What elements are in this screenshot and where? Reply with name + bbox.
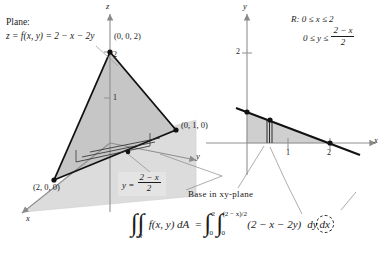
region-caption-line1: R: 0 ≤ x ≤ 2 — [291, 14, 355, 24]
equals-sign: = — [195, 218, 201, 231]
axis-label-x-2d: x — [374, 136, 378, 146]
double-integral-sign: ∫∫ R — [131, 214, 145, 234]
tick-z-1: 1 — [113, 93, 117, 102]
region-y-bounds-denominator: 2 — [331, 36, 354, 47]
region-x-bounds: 0 ≤ x ≤ 2 — [302, 14, 334, 24]
region-y-bounds-prefix: 0 ≤ y ≤ — [303, 33, 328, 43]
outer-lower-limit: 0 — [210, 229, 214, 237]
tick-z-2: 2 — [113, 50, 117, 59]
dashed-circle-annotation — [316, 215, 334, 234]
outer-upper-limit: 2 — [212, 210, 216, 218]
axis-label-y-2d: y — [243, 2, 247, 12]
region-caption: R: 0 ≤ x ≤ 2 0 ≤ y ≤ 2 − x 2 — [291, 14, 355, 47]
base-in-xy-plane-label: Base in xy-plane — [188, 189, 253, 199]
plane-caption-line1: Plane: — [6, 17, 94, 28]
integral-subscript-region: R — [138, 232, 142, 240]
region-caption-line2: 0 ≤ y ≤ 2 − x 2 — [303, 26, 355, 47]
vertex-label-y-intercept: (0, 1, 0) — [181, 121, 208, 131]
vertex-label-z-intercept: (0, 0, 2) — [114, 32, 141, 42]
integrand-right: (2 − x − 2y) — [247, 218, 301, 231]
y-equation-fraction: 2 − x 2 — [138, 173, 161, 194]
region-y-bounds-numerator: 2 − x — [331, 26, 354, 35]
outer-integral: ∫ 2 0 — [205, 214, 212, 234]
vertex-label-x-intercept: (2, 0, 0) — [33, 183, 60, 193]
y-equation-callout: y = 2 − x 2 — [118, 172, 166, 196]
y-equation-numerator: 2 − x — [138, 173, 161, 182]
tick-x-2-2d: 2 — [327, 148, 331, 157]
region-label: R: — [291, 14, 300, 24]
tick-y-2-2d: 2 — [236, 47, 240, 56]
figure-double-integral: Plane: z = f(x, y) = 2 − x − 2y R: 0 ≤ x… — [0, 0, 382, 253]
integral-equation: ∫∫ R f(x, y) dA = ∫ 2 0 ∫ (2 − x)/2 0 (2… — [131, 214, 332, 234]
axis-label-x-3d: x — [26, 214, 30, 224]
plane-caption: Plane: z = f(x, y) = 2 − x − 2y — [6, 17, 94, 42]
axis-label-y-3d: y — [196, 152, 200, 162]
tick-x-1-2d: 1 — [286, 148, 290, 157]
y-equation-prefix: y = — [122, 180, 134, 190]
inner-lower-limit: 0 — [221, 229, 225, 237]
axis-y-2d — [242, 14, 252, 175]
y-equation-denominator: 2 — [138, 182, 161, 193]
integral-glyph-outer: ∫ — [131, 209, 138, 236]
inner-integral: ∫ (2 − x)/2 0 — [216, 214, 223, 234]
integrand-left: f(x, y) dA — [149, 218, 190, 231]
differential-dx-circled: dx — [318, 217, 332, 232]
inner-upper-limit: (2 − x)/2 — [222, 210, 247, 218]
plane-caption-line2: z = f(x, y) = 2 − x − 2y — [6, 31, 94, 42]
region-y-bounds-fraction: 2 − x 2 — [331, 26, 354, 47]
axis-label-z-3d: z — [106, 2, 109, 12]
